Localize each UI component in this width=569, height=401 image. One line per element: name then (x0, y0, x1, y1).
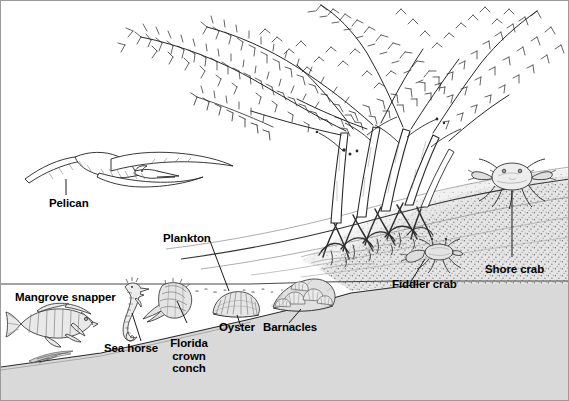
label-florida-crown-conch: Florida crown conch (161, 337, 217, 375)
label-fiddler-crab: Fiddler crab (392, 278, 457, 291)
label-plankton: Plankton (163, 232, 211, 245)
label-oyster: Oyster (219, 321, 255, 334)
label-sea-horse: Sea horse (104, 342, 158, 355)
label-pelican: Pelican (49, 197, 89, 210)
label-shore-crab: Shore crab (485, 263, 544, 276)
label-mangrove-snapper: Mangrove snapper (15, 291, 116, 304)
mangrove-ecosystem-figure: Pelican Plankton Mangrove snapper Sea ho… (0, 0, 569, 401)
label-barnacles: Barnacles (263, 321, 317, 334)
